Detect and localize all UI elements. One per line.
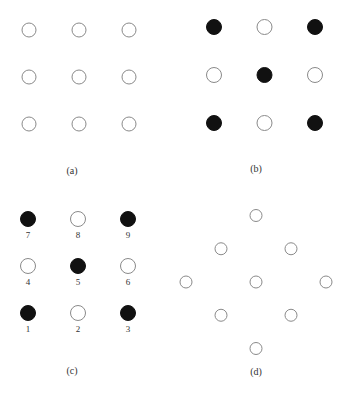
empty-circle-d-2	[320, 276, 332, 288]
panel-c-label: (c)	[66, 365, 77, 377]
panel-c: 789456123	[21, 212, 136, 335]
empty-circle-a-1	[72, 23, 86, 37]
empty-circle-a-6	[22, 117, 36, 131]
panel-a	[22, 23, 136, 131]
empty-circle-d-8	[250, 343, 262, 355]
panel-b	[207, 20, 323, 131]
empty-circle-d-4	[250, 276, 262, 288]
panel-d	[180, 210, 332, 355]
empty-circle-a-7	[72, 117, 86, 131]
empty-circle-a-2	[122, 23, 136, 37]
empty-circle-d-3	[215, 243, 227, 255]
cell-number-2: 2	[76, 324, 81, 334]
empty-circle-b-7	[257, 116, 272, 131]
empty-circle-b-3	[207, 68, 222, 83]
cell-number-4: 4	[26, 277, 31, 287]
empty-circle-a-0	[22, 23, 36, 37]
empty-circle-a-5	[122, 70, 136, 84]
filled-circle-b-2	[308, 20, 323, 35]
filled-circle-c-8	[121, 306, 136, 321]
filled-circle-b-8	[308, 116, 323, 131]
filled-circle-c-0	[21, 212, 36, 227]
cell-number-7: 7	[26, 230, 31, 240]
empty-circle-c-3	[21, 259, 36, 274]
panel-d-label: (d)	[250, 366, 262, 378]
cell-number-6: 6	[126, 277, 131, 287]
empty-circle-c-5	[121, 259, 136, 274]
filled-circle-b-6	[207, 116, 222, 131]
empty-circle-a-4	[72, 70, 86, 84]
figure-canvas: 789456123 (a) (b) (c) (d)	[0, 0, 345, 394]
empty-circle-d-1	[285, 243, 297, 255]
cell-number-5: 5	[76, 277, 81, 287]
filled-circle-c-6	[21, 306, 36, 321]
cell-number-1: 1	[26, 324, 31, 334]
empty-circle-c-7	[71, 306, 86, 321]
filled-circle-b-4	[257, 68, 272, 83]
filled-circle-c-2	[121, 212, 136, 227]
empty-circle-c-1	[71, 212, 86, 227]
cell-number-9: 9	[126, 230, 131, 240]
filled-circle-c-4	[71, 259, 86, 274]
cell-number-8: 8	[76, 230, 81, 240]
empty-circle-a-3	[22, 70, 36, 84]
empty-circle-d-6	[180, 276, 192, 288]
empty-circle-b-5	[308, 68, 323, 83]
panel-a-label: (a)	[66, 165, 77, 177]
empty-circle-d-0	[250, 210, 262, 222]
empty-circle-d-5	[285, 309, 297, 321]
filled-circle-b-0	[207, 20, 222, 35]
cell-number-3: 3	[126, 324, 131, 334]
empty-circle-b-1	[257, 20, 272, 35]
empty-circle-a-8	[122, 117, 136, 131]
panel-b-label: (b)	[250, 163, 262, 175]
empty-circle-d-7	[215, 309, 227, 321]
